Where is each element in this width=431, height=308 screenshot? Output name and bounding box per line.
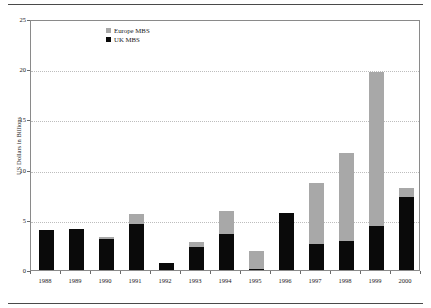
bar-group[interactable]	[69, 229, 84, 270]
bars-container	[31, 21, 419, 270]
bar-group[interactable]	[279, 213, 294, 270]
bar-segment-uk[interactable]	[99, 239, 114, 270]
y-tick-label: 0	[23, 268, 26, 275]
bar-segment-uk[interactable]	[279, 213, 294, 270]
bar-segment-uk[interactable]	[69, 229, 84, 270]
x-tick-mark	[30, 271, 31, 274]
bar-segment-europe[interactable]	[129, 214, 144, 224]
y-tick-label: 10	[20, 167, 27, 174]
x-tick-label: 1998	[339, 277, 352, 284]
bottom-rule	[8, 303, 423, 304]
x-tick-label: 1999	[369, 277, 382, 284]
bar-segment-europe[interactable]	[249, 251, 264, 269]
bar-segment-uk[interactable]	[219, 234, 234, 270]
x-tick-mark	[420, 271, 421, 274]
x-tick-mark	[120, 271, 121, 274]
bar-group[interactable]	[129, 214, 144, 270]
x-tick-label: 1995	[249, 277, 262, 284]
bar-segment-uk[interactable]	[339, 241, 354, 270]
y-tick-label: 15	[20, 117, 27, 124]
bar-group[interactable]	[369, 72, 384, 270]
x-tick-mark	[150, 271, 151, 274]
legend-item-uk: UK MBS	[106, 36, 150, 43]
bar-segment-uk[interactable]	[129, 224, 144, 270]
bar-segment-uk[interactable]	[39, 230, 54, 270]
x-tick-mark	[180, 271, 181, 274]
top-rule	[8, 4, 423, 5]
x-tick-label: 1989	[69, 277, 82, 284]
uk-swatch-icon	[106, 37, 111, 42]
x-tick-label: 1997	[309, 277, 322, 284]
bar-group[interactable]	[189, 242, 204, 270]
bar-segment-uk[interactable]	[189, 247, 204, 270]
bar-group[interactable]	[249, 251, 264, 270]
x-tick-label: 2000	[399, 277, 412, 284]
bar-group[interactable]	[309, 183, 324, 270]
chart-figure: US Dollars in Billions 0510152025 198819…	[0, 0, 431, 308]
plot-area	[30, 20, 420, 271]
y-axis: US Dollars in Billions 0510152025	[0, 20, 30, 271]
bar-group[interactable]	[339, 153, 354, 270]
x-tick-mark	[300, 271, 301, 274]
bar-segment-uk[interactable]	[159, 263, 174, 270]
x-tick-label: 1996	[279, 277, 292, 284]
x-tick-mark	[240, 271, 241, 274]
bar-segment-europe[interactable]	[339, 153, 354, 241]
x-tick-mark	[270, 271, 271, 274]
x-tick-label: 1991	[129, 277, 142, 284]
legend-label-uk: UK MBS	[114, 36, 140, 43]
x-tick-mark	[390, 271, 391, 274]
legend-label-europe: Europe MBS	[114, 27, 150, 34]
x-tick-mark	[330, 271, 331, 274]
bar-group[interactable]	[39, 230, 54, 270]
x-tick-label: 1994	[219, 277, 232, 284]
y-tick-label: 20	[20, 67, 27, 74]
x-tick-label: 1993	[189, 277, 202, 284]
bar-segment-europe[interactable]	[309, 183, 324, 244]
x-tick-mark	[60, 271, 61, 274]
y-tick-label: 5	[23, 218, 26, 225]
x-tick-mark	[360, 271, 361, 274]
bar-segment-uk[interactable]	[369, 226, 384, 270]
bar-segment-europe[interactable]	[399, 188, 414, 197]
bar-segment-uk[interactable]	[309, 244, 324, 270]
bar-group[interactable]	[399, 188, 414, 270]
x-tick-label: 1992	[159, 277, 172, 284]
bar-group[interactable]	[219, 211, 234, 270]
bar-segment-uk[interactable]	[249, 269, 264, 270]
bar-segment-europe[interactable]	[219, 211, 234, 234]
bar-segment-uk[interactable]	[399, 197, 414, 270]
y-axis-title: US Dollars in Billions	[15, 76, 22, 216]
legend-item-europe: Europe MBS	[106, 27, 150, 34]
bar-group[interactable]	[159, 263, 174, 270]
bar-group[interactable]	[99, 237, 114, 270]
europe-swatch-icon	[106, 28, 111, 33]
x-tick-label: 1988	[39, 277, 52, 284]
x-tick-mark	[90, 271, 91, 274]
chart-legend: Europe MBS UK MBS	[106, 27, 150, 45]
x-tick-mark	[210, 271, 211, 274]
x-tick-label: 1990	[99, 277, 112, 284]
y-tick-label: 25	[20, 17, 27, 24]
x-axis: 1988198919901991199219931994199519961997…	[30, 271, 420, 293]
bar-segment-europe[interactable]	[369, 72, 384, 226]
